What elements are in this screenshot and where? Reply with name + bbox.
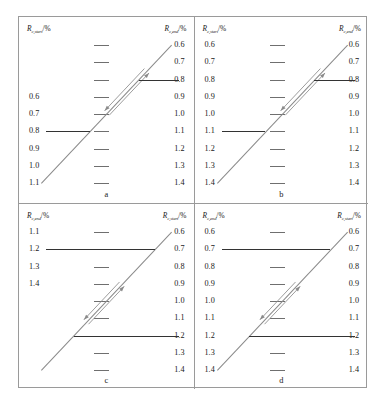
panel-c-right-scale-label: 1.3 [174, 349, 184, 357]
panel-b-left-scale-label: 1.0 [205, 110, 215, 118]
panel-d-left-reading-line [222, 249, 331, 250]
panel-d-right-scale-label: 0.7 [349, 245, 359, 253]
panel-a-right-scale-label: 0.6 [174, 41, 184, 49]
panel-a-letter: a [19, 190, 194, 199]
panel-d-left-scale-label: 1.1 [205, 314, 215, 322]
panel-c-left-reading-line [46, 249, 155, 250]
panel-c-right-scale-label: 0.9 [174, 280, 184, 288]
panel-a-right-scale-label: 1.1 [174, 127, 184, 135]
panel-d-left-scale-label: 0.9 [205, 280, 215, 288]
panel-b-right-scale-label: 1.4 [349, 179, 359, 187]
panel-b-right-scale-label: 1.3 [349, 162, 359, 170]
panel-b-right-scale-label: 0.9 [349, 93, 359, 101]
panel-d-right-scale-label: 1.0 [349, 297, 359, 305]
panel-a-right-scale-label: 0.9 [174, 93, 184, 101]
panel-b-direction-arrows [195, 17, 370, 203]
panel-c-right-reading-line [74, 336, 180, 337]
panel-d-left-scale-label: 0.7 [205, 245, 215, 253]
panel-c-right-scale-label: 0.7 [174, 245, 184, 253]
panel-c-right-scale-label: 0.6 [174, 228, 184, 236]
panel-b-left-scale-label: 0.8 [205, 76, 215, 84]
panel-a-right-scale-label: 0.7 [174, 58, 184, 66]
panel-c-right-scale-label: 1.1 [174, 314, 184, 322]
panel-d-right-scale-label: 1.1 [349, 314, 359, 322]
panel-d-right-scale-label: 0.6 [349, 228, 359, 236]
panel-a-left-scale-label: 1.1 [29, 179, 39, 187]
panel-a: Rc,start/%Rc,end/%0.60.70.80.91.01.10.60… [19, 17, 194, 203]
panel-d-plot-area: Rc,end/%Rc,start/%0.60.70.80.91.01.11.21… [195, 204, 369, 389]
panel-d-left-scale-label: 1.2 [205, 332, 215, 340]
panel-c: Rc,end/%Rc,start/%1.11.21.31.40.60.70.80… [19, 203, 194, 389]
panel-c-right-scale-label: 0.8 [174, 263, 184, 271]
panel-b-left-scale-label: 1.2 [205, 145, 215, 153]
panel-c-left-scale-label: 1.4 [29, 280, 39, 288]
panel-b-right-reading-line [314, 80, 355, 81]
panel-a-right-scale-label: 1.4 [174, 179, 184, 187]
panel-b-left-scale-label: 1.1 [205, 127, 215, 135]
panel-b-right-scale-label: 0.6 [349, 41, 359, 49]
panel-d-letter: d [195, 376, 369, 385]
panel-d-left-scale-label: 0.6 [205, 228, 215, 236]
panel-b-right-scale-label: 0.7 [349, 58, 359, 66]
panel-a-right-scale-label: 1.0 [174, 110, 184, 118]
panel-a-left-scale-label: 0.6 [29, 93, 39, 101]
panel-c-right-scale-label: 1.0 [174, 297, 184, 305]
panel-c-left-scale-label: 1.3 [29, 263, 39, 271]
panel-b-left-scale-label: 0.6 [205, 41, 215, 49]
panel-a-left-scale-label: 0.9 [29, 145, 39, 153]
panel-c-plot-area: Rc,end/%Rc,start/%1.11.21.31.40.60.70.80… [19, 204, 194, 389]
panel-a-right-scale-label: 1.3 [174, 162, 184, 170]
panel-b-left-scale-label: 1.4 [205, 179, 215, 187]
panel-a-right-scale-label: 1.2 [174, 145, 184, 153]
panel-b-right-scale-label: 1.1 [349, 127, 359, 135]
panel-d-left-scale-label: 1.4 [205, 366, 215, 374]
panel-a-left-scale-label: 0.8 [29, 127, 39, 135]
panel-c-letter: c [19, 376, 194, 385]
panel-a-direction-arrows [19, 17, 194, 203]
panel-d-left-scale-label: 0.8 [205, 263, 215, 271]
panel-b-plot-area: Rc,start/%Rc,end/%0.60.70.80.91.01.11.21… [195, 17, 369, 203]
panel-a-left-scale-label: 1.0 [29, 162, 39, 170]
panel-b-left-scale-label: 1.3 [205, 162, 215, 170]
panel-b-left-reading-line [222, 131, 266, 132]
panel-d-right-scale-label: 1.4 [349, 366, 359, 374]
panel-c-left-scale-label: 1.2 [29, 245, 39, 253]
panel-d-direction-arrows [195, 204, 370, 390]
panel-d-left-scale-label: 1.3 [205, 349, 215, 357]
panel-d: Rc,end/%Rc,start/%0.60.70.80.91.01.11.21… [194, 203, 369, 389]
panel-d-right-reading-line [249, 336, 355, 337]
panel-b-letter: b [195, 190, 369, 199]
panel-b: Rc,start/%Rc,end/%0.60.70.80.91.01.11.21… [194, 17, 369, 203]
panel-b-right-scale-label: 1.2 [349, 145, 359, 153]
panel-a-left-reading-line [46, 131, 90, 132]
nomogram-figure: Rc,start/%Rc,end/%0.60.70.80.91.01.10.60… [18, 16, 367, 388]
panel-c-direction-arrows [19, 204, 194, 390]
panel-d-right-scale-label: 0.9 [349, 280, 359, 288]
panel-d-right-scale-label: 1.3 [349, 349, 359, 357]
panel-c-left-scale-label: 1.1 [29, 228, 39, 236]
panel-d-left-scale-label: 1.0 [205, 297, 215, 305]
panel-b-left-scale-label: 0.7 [205, 58, 215, 66]
panel-b-left-scale-label: 0.9 [205, 93, 215, 101]
panel-c-right-scale-label: 1.4 [174, 366, 184, 374]
panel-b-right-scale-label: 1.0 [349, 110, 359, 118]
panel-a-plot-area: Rc,start/%Rc,end/%0.60.70.80.91.01.10.60… [19, 17, 194, 203]
panel-a-right-reading-line [139, 80, 180, 81]
panel-a-left-scale-label: 0.7 [29, 110, 39, 118]
panel-d-right-scale-label: 0.8 [349, 263, 359, 271]
